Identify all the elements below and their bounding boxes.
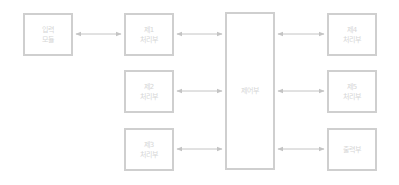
node-left: 입력 모듈 [23, 13, 73, 56]
node-label: 입력 모듈 [42, 25, 54, 45]
node-label: 제2 처리부 [140, 82, 158, 102]
node-center: 제어부 [225, 12, 275, 170]
node-label: 제어부 [241, 86, 259, 96]
node-col4-bot: 출력부 [327, 128, 377, 171]
node-label: 제3 처리부 [140, 140, 158, 160]
node-col2-top: 제1 처리부 [124, 13, 174, 56]
node-col2-mid: 제2 처리부 [124, 70, 174, 113]
node-col4-mid: 제5 처리부 [327, 70, 377, 113]
node-label: 제5 처리부 [343, 82, 361, 102]
node-col4-top: 제4 처리부 [327, 13, 377, 56]
node-label: 제1 처리부 [140, 25, 158, 45]
node-label: 제4 처리부 [343, 25, 361, 45]
node-col2-bot: 제3 처리부 [124, 128, 174, 171]
node-label: 출력부 [343, 145, 361, 155]
